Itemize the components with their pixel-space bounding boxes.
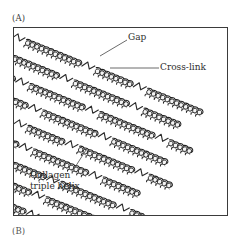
callout-gap: Gap bbox=[128, 32, 146, 43]
panel-label-a: (A) bbox=[12, 13, 25, 23]
panel-label-b: (B) bbox=[12, 226, 25, 235]
collagen-fibril-figure: (A) bbox=[0, 0, 239, 235]
callout-collagen-triple-helix: Collagen triple helix bbox=[30, 170, 80, 191]
callout-cross-link: Cross-link bbox=[160, 62, 206, 73]
